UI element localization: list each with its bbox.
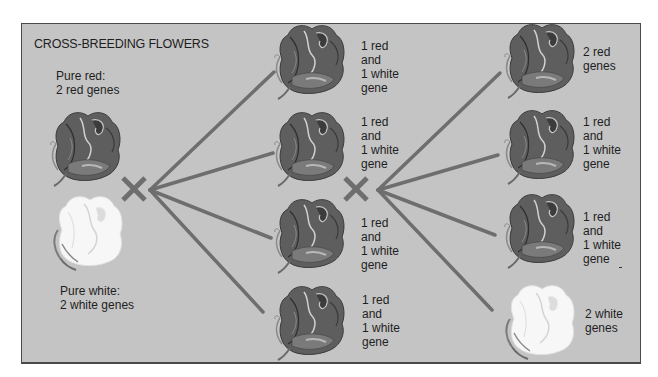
gen1-label-3: 1 red and 1 white gene (361, 216, 399, 272)
red-flower-icon (270, 197, 352, 277)
white-flower-icon (500, 283, 582, 363)
red-flower-icon (500, 192, 582, 272)
gen1-label-2: 1 red and 1 white gene (361, 115, 399, 171)
red-flower-icon (270, 284, 352, 364)
gen1-label-1: 1 red and 1 white gene (361, 39, 399, 95)
red-flower-icon (46, 110, 128, 190)
stray-mark (619, 267, 622, 268)
red-flower-icon (500, 108, 582, 188)
white-flower-icon (48, 193, 130, 275)
red-flower-icon (270, 23, 352, 103)
parent-white-label: Pure white: 2 white genes (60, 284, 134, 312)
parent-red-label: Pure red: 2 red genes (56, 69, 119, 97)
gen2-label-2: 1 red and 1 white gene (583, 115, 621, 171)
gen2-label-3: 1 red and 1 white gene (583, 210, 621, 266)
gen2-label-4: 2 white genes (585, 307, 623, 335)
gen1-label-4: 1 red and 1 white gene (362, 293, 400, 349)
red-flower-icon (500, 22, 582, 102)
red-flower-icon (270, 110, 352, 190)
gen2-label-1: 2 red genes (583, 45, 616, 73)
